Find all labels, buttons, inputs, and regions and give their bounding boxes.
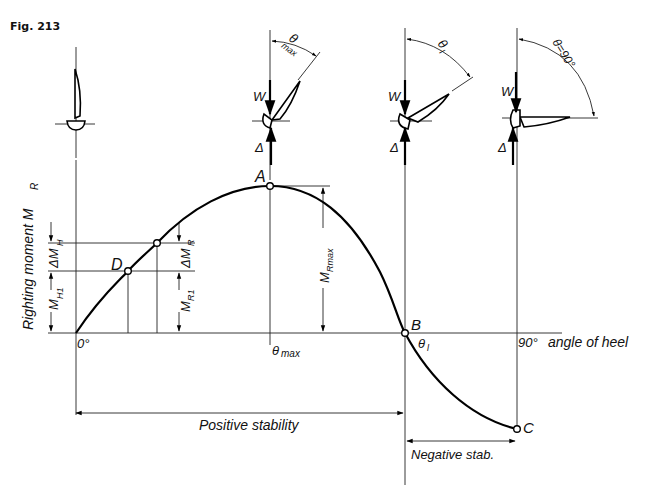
theta-90-angle-label: θ=90° xyxy=(549,36,578,70)
y-axis-label: Righting moment M xyxy=(20,208,36,330)
point-mh xyxy=(154,240,161,247)
theta-max-angle-sub: max xyxy=(279,40,299,58)
point-c xyxy=(514,426,521,433)
buoyancy-label-2: Δ xyxy=(389,140,399,155)
x-axis-label: angle of heel xyxy=(548,334,629,350)
point-b xyxy=(402,330,409,337)
point-d-label: D xyxy=(111,256,123,273)
origin-label: 0° xyxy=(77,336,89,351)
positive-stability-label: Positive stability xyxy=(199,417,300,433)
delta-mr-sub: R xyxy=(186,239,196,246)
point-d xyxy=(125,268,132,275)
mrmax-sub: Rmax xyxy=(325,248,335,272)
mrmax-label: M xyxy=(317,272,332,283)
point-b-label: B xyxy=(411,316,421,333)
point-a xyxy=(267,183,274,190)
weight-label-2: W xyxy=(388,89,402,104)
delta-mh-label: ΔM xyxy=(46,248,61,269)
boat-theta-l-icon xyxy=(390,28,473,485)
mr1-label: M xyxy=(178,301,193,312)
mh1-label: M xyxy=(46,299,61,310)
theta-max-axis-label: θ xyxy=(272,343,279,358)
x-end-label: 90° xyxy=(518,335,538,350)
theta-l-axis-label: θ xyxy=(418,336,425,351)
delta-mr-label: ΔM xyxy=(178,248,193,269)
weight-label-1: W xyxy=(253,89,267,104)
point-c-label: C xyxy=(523,419,534,436)
buoyancy-label-3: Δ xyxy=(497,140,507,155)
buoyancy-label-1: Δ xyxy=(254,140,264,155)
weight-label-3: W xyxy=(501,84,515,99)
point-a-label: A xyxy=(254,168,266,185)
stability-diagram: Fig. 213 W Δ θ max W Δ θ l xyxy=(0,0,663,485)
y-axis-label-sub: R xyxy=(29,183,40,190)
figure-label: Fig. 213 xyxy=(10,20,60,33)
theta-l-axis-sub: l xyxy=(427,343,430,353)
boat-upright-icon xyxy=(55,47,95,158)
boat-theta-90-icon xyxy=(502,28,598,430)
negative-stability-label: Negative stab. xyxy=(411,447,494,462)
righting-moment-curve xyxy=(76,186,517,429)
mr1-sub: R1 xyxy=(186,289,196,301)
mh1-sub: H1 xyxy=(55,287,65,299)
theta-max-axis-sub: max xyxy=(281,348,301,359)
delta-mh-sub: H xyxy=(55,239,65,246)
